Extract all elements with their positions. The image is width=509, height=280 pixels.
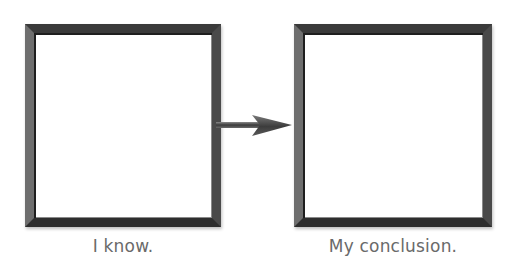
arrow-right-icon [216, 112, 294, 140]
conclusion-label: My conclusion. [318, 236, 468, 256]
known-label: I know. [73, 236, 173, 256]
conclusion-box [294, 24, 492, 227]
known-box [25, 24, 221, 227]
